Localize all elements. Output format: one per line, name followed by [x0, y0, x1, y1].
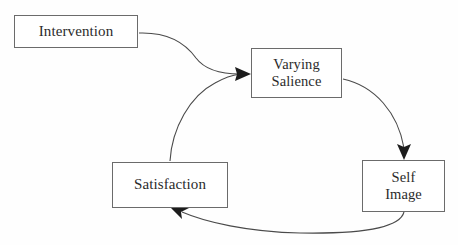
edge-satisfaction-to-varying-salience [170, 74, 240, 161]
node-varying-salience-label: Varying Salience [272, 56, 322, 90]
node-intervention[interactable]: Intervention [14, 15, 138, 48]
node-self-image[interactable]: Self Image [362, 160, 445, 212]
node-satisfaction-label: Satisfaction [134, 176, 206, 194]
node-self-image-label: Self Image [385, 169, 422, 203]
arrowhead-into-varying-salience [235, 67, 251, 81]
node-satisfaction[interactable]: Satisfaction [112, 162, 228, 208]
node-intervention-label: Intervention [39, 23, 114, 41]
edge-self-image-to-satisfaction [182, 212, 404, 233]
node-varying-salience[interactable]: Varying Salience [251, 48, 342, 98]
edge-intervention-to-varying-salience [139, 33, 240, 74]
edge-varying-salience-to-self-image [343, 79, 404, 148]
diagram-canvas: Intervention Varying Salience Self Image… [0, 0, 458, 245]
